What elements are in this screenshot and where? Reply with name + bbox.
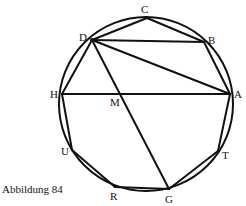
- circumcircle: [59, 17, 233, 191]
- figure-caption: Abbildung 84: [2, 183, 63, 195]
- label-c: C: [141, 4, 148, 15]
- label-a: A: [234, 89, 242, 100]
- label-r: R: [110, 191, 117, 202]
- polygon-segments: [62, 18, 230, 189]
- label-g: G: [165, 194, 173, 205]
- geometry-figure: [0, 0, 246, 206]
- label-m: M: [110, 97, 120, 108]
- label-d: D: [79, 32, 87, 43]
- label-b: B: [208, 35, 215, 46]
- vertex-d-dot: [90, 38, 94, 42]
- label-u: U: [61, 146, 69, 157]
- label-h: H: [50, 89, 58, 100]
- label-t: T: [222, 150, 229, 161]
